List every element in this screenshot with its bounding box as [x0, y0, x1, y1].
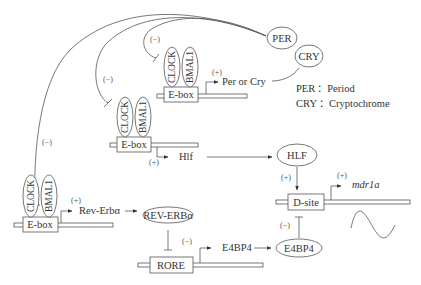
cry-tail-line	[272, 68, 299, 81]
svg-text:(+): (+)	[337, 171, 347, 180]
hlf-protein: HLF	[277, 144, 317, 166]
svg-text:HLF: HLF	[287, 150, 307, 161]
ebox-middle: E-box CLOCK BMAL1 (+) Hlf	[110, 97, 272, 167]
svg-text:E4BP4: E4BP4	[284, 243, 315, 254]
per-cry-inhibition-arcs	[30, 14, 299, 205]
cry-protein: CRY	[295, 45, 323, 67]
svg-text:E-box: E-box	[121, 139, 147, 150]
svg-text:REV-ERBα: REV-ERBα	[143, 210, 193, 221]
svg-text:CLOCK: CLOCK	[120, 101, 130, 133]
svg-text:BMAL1: BMAL1	[138, 101, 148, 133]
circadian-oscillation-wave-icon	[351, 211, 395, 238]
per-cry-transcription-arrow	[206, 82, 218, 94]
inhibition-arc-top	[144, 18, 266, 58]
rore-element: RORE E4BP4	[138, 242, 271, 273]
svg-text:CLOCK: CLOCK	[167, 51, 177, 83]
svg-text:(+): (+)	[149, 158, 159, 167]
legend-per: PER：Period	[296, 83, 355, 94]
inhibition-sign-bottom: (−)	[42, 138, 52, 147]
hlf-transcription-arrow	[157, 147, 168, 157]
dsite-element: D-site (+) mdr1a	[276, 171, 410, 210]
clock-gene-pathway-diagram: (−) (−) (−) PER CRY PER：Period CRY：Crypt…	[0, 0, 421, 285]
per-protein: PER	[267, 27, 297, 49]
ebox-bottom: E-box CLOCK BMAL1 (+) Rev-Erbα	[14, 175, 137, 232]
inhibition-sign-top: (−)	[150, 35, 160, 44]
rev-erba-protein: REV-ERBα	[143, 207, 193, 223]
svg-text:E-box: E-box	[27, 219, 53, 230]
ebox-top: E-box CLOCK BMAL1 (+) Per or Cry	[157, 47, 266, 102]
per-or-cry-gene: Per or Cry	[222, 76, 266, 87]
svg-text:PER: PER	[272, 33, 291, 44]
e4bp4-transcription-arrow	[200, 248, 211, 263]
svg-text:E-box: E-box	[168, 89, 194, 100]
inhibition-bar-top	[153, 54, 159, 62]
mdr1a-transcription-arrow	[331, 186, 341, 200]
hlf-activation-sign: (+)	[281, 173, 291, 182]
inhibition-bar-middle	[104, 99, 112, 107]
rev-erba-transcription-arrow	[61, 211, 72, 223]
svg-text:D-site: D-site	[293, 197, 319, 208]
svg-text:CRY: CRY	[298, 51, 319, 62]
inhibition-sign-middle: (−)	[103, 75, 113, 84]
svg-text:BMAL1: BMAL1	[185, 51, 195, 83]
hlf-gene: Hlf	[179, 151, 194, 162]
e4bp4-protein: E4BP4	[276, 239, 322, 257]
e4bp4-gene: E4BP4	[222, 242, 253, 253]
svg-text:CLOCK: CLOCK	[26, 180, 36, 212]
mdr1a-gene: mdr1a	[352, 179, 379, 190]
svg-text:BMAL1: BMAL1	[44, 180, 54, 212]
svg-text:(+): (+)	[71, 196, 81, 205]
svg-text:(+): (+)	[212, 68, 222, 77]
e4bp4-inhibition-sign: (−)	[280, 221, 290, 230]
rev-erba-gene: Rev-Erbα	[79, 205, 121, 216]
svg-text:RORE: RORE	[157, 260, 185, 271]
rev-erba-inhibition-sign: (−)	[182, 237, 192, 246]
legend: PER：Period CRY：Cryptochrome	[296, 83, 390, 109]
legend-cry: CRY：Cryptochrome	[296, 98, 390, 109]
